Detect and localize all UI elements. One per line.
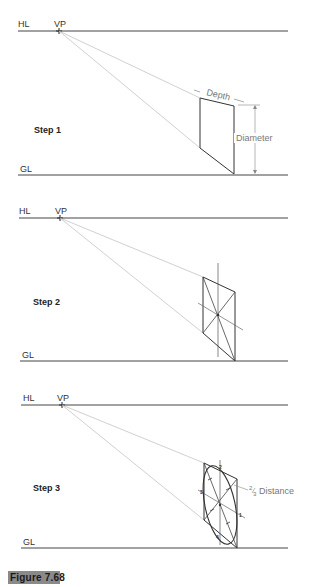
point-mark: 2 — [219, 464, 222, 470]
construction-line — [59, 31, 200, 98]
hl-label: HL — [19, 206, 31, 216]
construction-line — [59, 31, 200, 148]
depth-dimension: Depth — [194, 87, 244, 102]
step-label: Step 1 — [34, 125, 61, 135]
panel-step-3: HL VP 2 3 1 4 2 — [21, 393, 294, 548]
receding-plane — [200, 98, 234, 174]
hl-label: HL — [18, 19, 30, 29]
vp-label: VP — [54, 19, 66, 29]
step-label: Step 2 — [33, 297, 60, 307]
point-mark: 4 — [216, 534, 219, 540]
panel-step-1: HL VP Depth Diameter Step 1 GL — [18, 19, 288, 175]
center-point — [217, 314, 219, 316]
diameter-label: Diameter — [236, 133, 273, 143]
distance-label: Distance — [259, 486, 294, 496]
point-mark: 3 — [200, 489, 203, 495]
vp-label: VP — [57, 393, 69, 403]
panel-step-2: HL VP Step 2 GL — [19, 206, 288, 361]
gl-label: GL — [23, 537, 35, 547]
two-thirds-distance-annotation: 2 3 Distance — [234, 485, 294, 497]
construction-line — [60, 218, 203, 333]
step-label: Step 3 — [33, 483, 60, 493]
diagonal-line — [204, 479, 237, 520]
svg-text:3: 3 — [253, 491, 257, 497]
construction-line — [62, 405, 204, 463]
hl-label: HL — [23, 393, 35, 403]
center-point — [219, 504, 221, 506]
point-mark: 1 — [239, 512, 242, 518]
gl-label: GL — [22, 350, 34, 360]
perspective-diagram: HL VP Depth Diameter Step 1 GL — [0, 0, 311, 587]
vp-label: VP — [55, 206, 67, 216]
construction-line — [60, 218, 203, 277]
diagonal-line — [203, 292, 235, 333]
figure-caption: Figure 7.68 — [10, 571, 65, 584]
construction-line — [62, 405, 204, 520]
diameter-dimension: Diameter — [234, 105, 276, 174]
gl-label: GL — [20, 164, 32, 174]
receding-centerline — [198, 303, 243, 330]
